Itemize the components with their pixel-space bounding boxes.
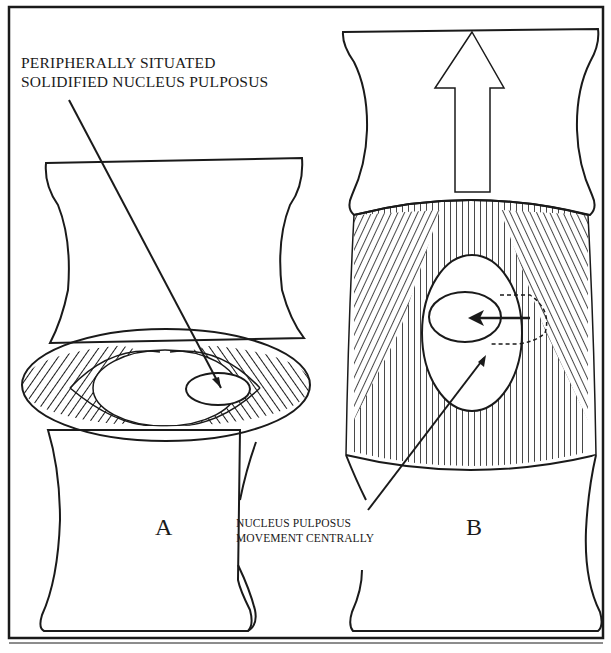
panel-a-upper-vertebra <box>46 158 304 343</box>
panel-b-letter: B <box>466 514 482 541</box>
panel-b-lower-vertebra <box>350 455 601 631</box>
central-movement-label-line1: NUCLEUS PULPOSUS <box>236 516 374 531</box>
central-movement-label-line2: MOVEMENT CENTRALLY <box>236 531 374 546</box>
peripheral-nucleus-label-line1: PERIPHERALLY SITUATED <box>21 53 268 72</box>
panel-a-annulus-fibrosus <box>20 330 320 445</box>
peripheral-nucleus-label-line2: SOLIDIFIED NUCLEUS PULPOSUS <box>21 72 268 91</box>
spine-disc-diagram <box>0 0 611 653</box>
panel-a <box>20 100 320 631</box>
panel-a-lower-vertebra-right-edge <box>240 442 256 500</box>
panel-b-lower-vertebra-left-edge-top <box>346 455 366 500</box>
central-movement-label: NUCLEUS PULPOSUS MOVEMENT CENTRALLY <box>236 516 374 546</box>
peripheral-nucleus-label: PERIPHERALLY SITUATED SOLIDIFIED NUCLEUS… <box>21 53 268 91</box>
panel-a-lower-vertebra <box>40 430 251 631</box>
panel-a-letter: A <box>155 514 172 541</box>
